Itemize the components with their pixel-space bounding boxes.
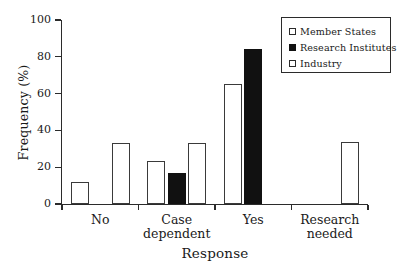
legend-swatch-filled-icon [289, 44, 296, 51]
bar [168, 173, 186, 204]
bar [341, 142, 359, 204]
y-axis-tick [55, 19, 61, 20]
x-axis-category-label-line: needed [282, 227, 378, 241]
legend-item-member-states: Member States [289, 23, 390, 39]
y-axis-tick-label: 0 [17, 197, 51, 210]
y-axis-tick [55, 56, 61, 57]
x-axis-category-label: Researchneeded [282, 213, 378, 241]
bar [188, 143, 206, 204]
bar [244, 49, 262, 204]
y-axis-tick-label: 20 [17, 160, 51, 173]
x-axis-tick [291, 205, 292, 210]
legend-label: Member States [300, 26, 376, 37]
x-axis-tick [214, 205, 215, 210]
legend: Member States Research Institutes Indust… [281, 17, 391, 73]
y-axis-tick-label: 40 [17, 123, 51, 136]
x-axis-tick [138, 205, 139, 210]
y-axis-tick [55, 203, 61, 204]
x-axis-category-label-line: dependent [129, 227, 225, 241]
legend-label: Industry [300, 58, 342, 69]
legend-swatch-open-icon [289, 28, 296, 35]
y-axis-tick-label: 60 [17, 87, 51, 100]
y-axis-tick [55, 93, 61, 94]
legend-item-industry: Industry [289, 55, 390, 71]
bar [224, 84, 242, 204]
bar-chart: Frequency (%) 020406080100 NoCasedepende… [0, 0, 408, 273]
x-axis-category-label-line: Research [282, 213, 378, 227]
y-axis-tick [55, 167, 61, 168]
y-axis-tick-label: 100 [17, 13, 51, 26]
y-axis-tick-label: 80 [17, 50, 51, 63]
y-axis-tick [55, 130, 61, 131]
x-axis-title: Response [62, 245, 368, 261]
legend-label: Research Institutes [300, 42, 397, 53]
bar [147, 161, 165, 204]
bar [71, 182, 89, 204]
bar [112, 143, 130, 204]
legend-item-research-institutes: Research Institutes [289, 39, 390, 55]
legend-swatch-open-icon [289, 60, 296, 67]
x-axis-tick [367, 205, 368, 210]
x-axis-tick [61, 205, 62, 210]
